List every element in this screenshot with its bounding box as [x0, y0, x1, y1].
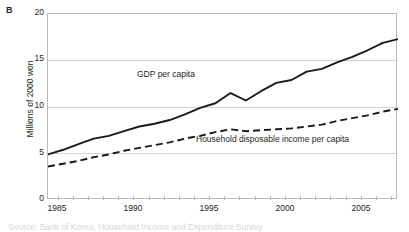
y-tick-label-5: 5 [22, 148, 44, 157]
x-axis-ticks [58, 196, 391, 200]
figure-panel-b: B Millions of 2000 won 20 15 10 5 0 [0, 0, 409, 232]
x-tick-label-1985: 1985 [37, 203, 77, 213]
series-annotation-gdp: GDP per capita [137, 69, 195, 79]
x-tick-label-1995: 1995 [189, 203, 229, 213]
y-tick-label-15: 15 [22, 54, 44, 63]
panel-letter: B [6, 5, 13, 16]
x-tick-label-2000: 2000 [265, 203, 305, 213]
figure-caption-partial: Source: Bank of Korea, Household Income … [8, 222, 400, 232]
x-tick-label-2005: 2005 [341, 203, 381, 213]
y-tick-label-20: 20 [22, 8, 44, 17]
x-tick-label-1990: 1990 [113, 203, 153, 213]
y-tick-label-0: 0 [22, 194, 44, 203]
y-axis-tick-labels: 20 15 10 5 0 [20, 0, 44, 232]
chart-svg [48, 14, 398, 200]
series-annotation-household: Household disposable income per capita [196, 134, 349, 144]
plot-area [47, 13, 397, 199]
y-tick-label-10: 10 [22, 101, 44, 110]
